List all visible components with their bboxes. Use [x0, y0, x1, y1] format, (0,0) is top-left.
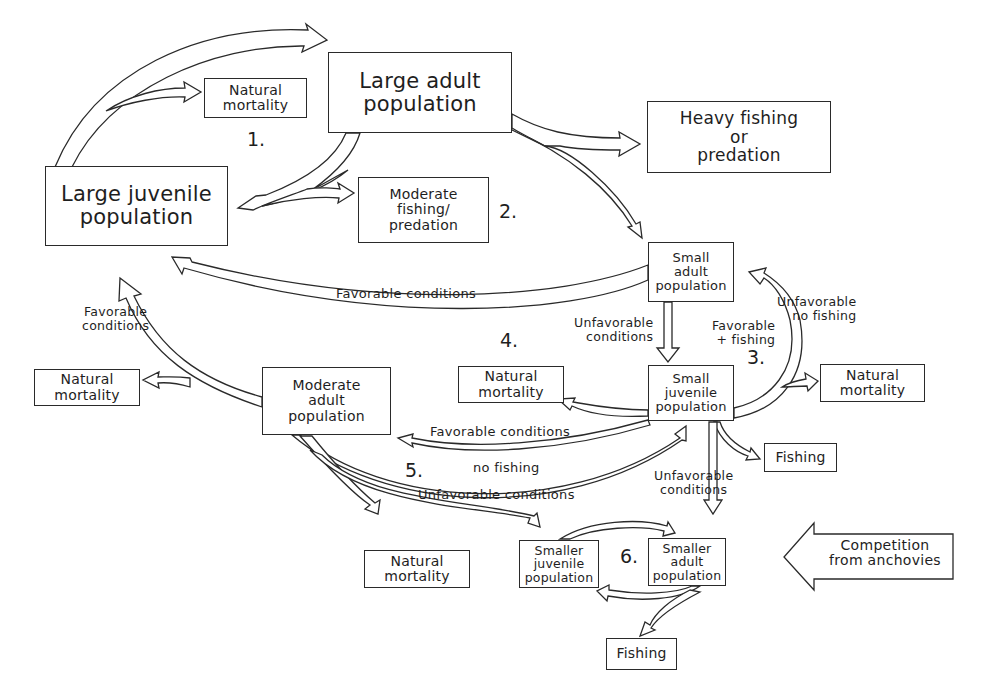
node-moderate-fishing-predation: Moderate fishing/ predation — [358, 177, 489, 243]
scenario-number-3: 3. — [747, 346, 765, 368]
label-unfavorable-conditions-low: Unfavorable conditions — [418, 488, 575, 502]
label-favorable-plus-fishing: Favorable + fishing — [712, 319, 775, 347]
node-natural-mortality-bottom: Natural mortality — [364, 550, 470, 588]
label-favorable-conditions-left: Favorable conditions — [82, 305, 149, 333]
scenario-number-2: 2. — [499, 200, 517, 222]
label-unfavorable-conditions-small-adult: Unfavorable conditions — [574, 316, 653, 344]
label-no-fishing: no fishing — [473, 461, 540, 475]
competition-from-anchovies-label: Competition from anchovies — [818, 538, 952, 569]
node-moderate-adult-population: Moderate adult population — [262, 367, 391, 435]
node-natural-mortality-left: Natural mortality — [34, 369, 140, 406]
scenario-number-1: 1. — [247, 128, 265, 150]
node-small-adult-population: Small adult population — [648, 242, 734, 302]
node-natural-mortality-mid: Natural mortality — [458, 366, 564, 403]
arrow-to-heavy-fishing — [512, 114, 640, 156]
node-fishing-bottom: Fishing — [606, 638, 677, 670]
scenario-number-4: 4. — [500, 329, 518, 351]
arrow-smaller-juvenile-to-smaller-adult — [560, 522, 675, 539]
scenario-number-6: 6. — [620, 545, 638, 567]
arrow-to-natural-mortality-left — [143, 372, 190, 388]
node-smaller-juvenile-population: Smaller juvenile population — [519, 540, 599, 588]
node-natural-mortality-1: Natural mortality — [204, 78, 307, 118]
label-unfavorable-conditions-small-juvenile: Unfavorable conditions — [654, 469, 733, 497]
node-fishing-right: Fishing — [764, 443, 837, 472]
scenario-number-5: 5. — [405, 459, 423, 481]
node-large-juvenile-population: Large juvenile population — [45, 166, 228, 246]
node-heavy-fishing-or-predation: Heavy fishing or predation — [647, 101, 831, 173]
arrow-small-adult-to-small-juvenile — [657, 302, 679, 362]
label-favorable-conditions-top: Favorable conditions — [336, 287, 476, 301]
node-natural-mortality-right: Natural mortality — [820, 364, 925, 402]
node-smaller-adult-population: Smaller adult population — [648, 538, 726, 586]
node-large-adult-population: Large adult population — [328, 52, 512, 133]
arrow-to-natural-mortality-mid — [558, 398, 648, 416]
label-unfavorable-no-fishing: Unfavorable no fishing — [777, 295, 856, 323]
node-small-juvenile-population: Small juvenile population — [648, 365, 734, 421]
label-favorable-conditions-mid: Favorable conditions — [430, 425, 570, 439]
arrow-to-fishing-right — [714, 422, 760, 460]
